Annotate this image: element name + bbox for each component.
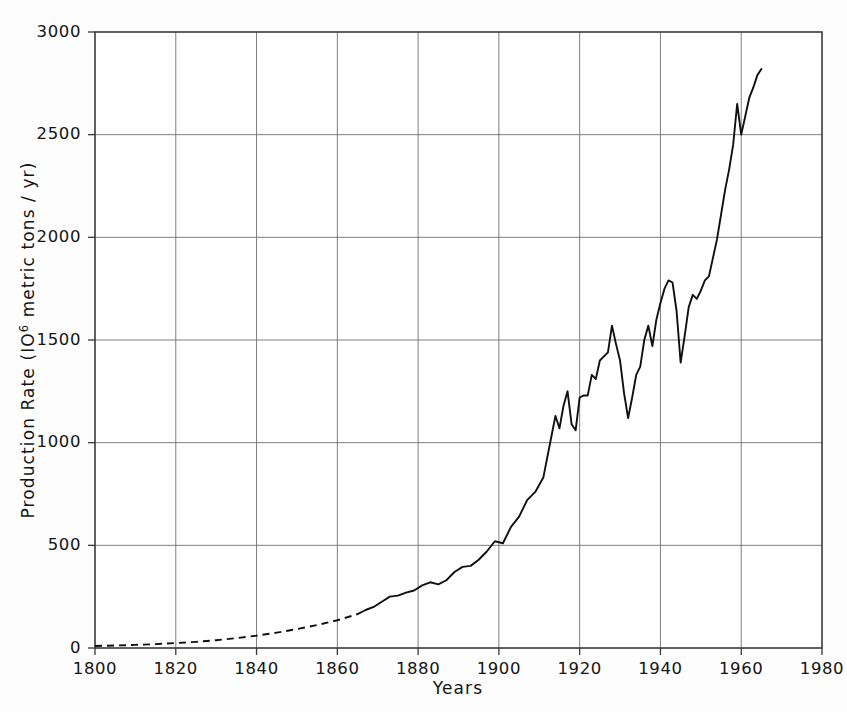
y-axis-title-suffix: metric tons / yr)	[18, 162, 38, 324]
figure-container: 050010001500200025003000 180018201840186…	[0, 0, 847, 712]
svg-text:Production Rate (IO6 metric to: Production Rate (IO6 metric tons / yr)	[17, 162, 38, 519]
x-tick-label: 1980	[800, 659, 844, 678]
production-rate-line-chart: 050010001500200025003000 180018201840186…	[0, 0, 847, 712]
x-tick-label: 1860	[315, 659, 359, 678]
x-tick-label: 1880	[396, 659, 440, 678]
y-tick-label: 2500	[37, 124, 81, 143]
y-axis-title-group: Production Rate (IO6 metric tons / yr)	[17, 162, 38, 519]
x-axis-ticks	[95, 648, 822, 655]
x-axis-title: Years	[432, 678, 483, 698]
y-axis-tick-labels: 050010001500200025003000	[37, 22, 81, 657]
y-tick-label: 1000	[37, 432, 81, 451]
x-tick-label: 1900	[477, 659, 521, 678]
x-tick-label: 1920	[557, 659, 601, 678]
y-tick-label: 1500	[37, 330, 81, 349]
x-tick-label: 1940	[638, 659, 682, 678]
x-tick-label: 1960	[719, 659, 763, 678]
y-axis-ticks	[88, 32, 95, 648]
x-tick-label: 1800	[73, 659, 117, 678]
y-tick-label: 500	[48, 535, 81, 554]
y-tick-label: 0	[70, 638, 81, 657]
y-tick-label: 2000	[37, 227, 81, 246]
x-axis-tick-labels: 1800182018401860188019001920194019601980	[73, 659, 844, 678]
y-tick-label: 3000	[37, 22, 81, 41]
x-tick-label: 1840	[234, 659, 278, 678]
x-tick-label: 1820	[154, 659, 198, 678]
y-axis-title-prefix: Production Rate (IO	[18, 332, 38, 518]
y-axis-title-superscript: 6	[17, 324, 31, 332]
